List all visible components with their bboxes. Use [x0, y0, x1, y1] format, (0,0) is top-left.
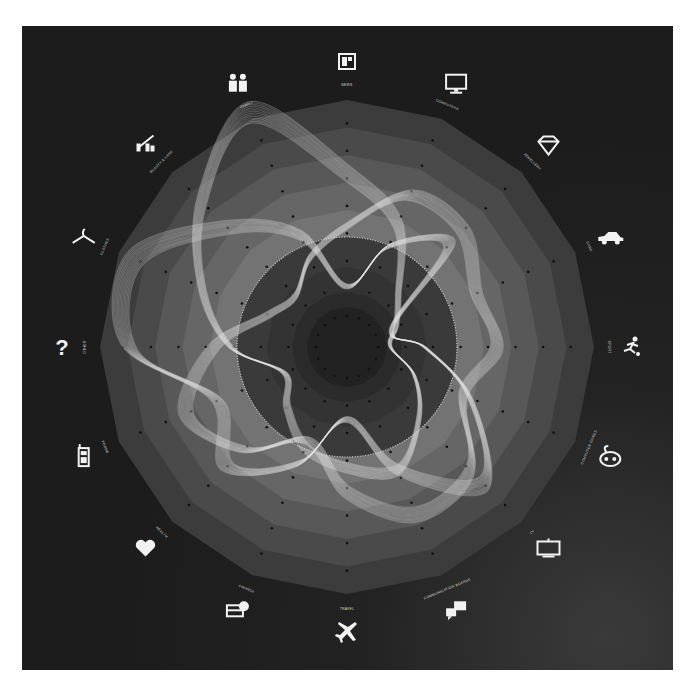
- grid-dot: [190, 281, 193, 284]
- grid-dot: [426, 426, 429, 429]
- grid-dot: [446, 446, 449, 449]
- grid-dot: [407, 407, 410, 410]
- inner-ring: [307, 307, 387, 387]
- category-label: OTHER: [83, 340, 87, 354]
- grid-dot: [527, 271, 530, 274]
- grid-dot: [346, 514, 349, 517]
- grid-dot: [389, 451, 392, 454]
- grid-dot: [150, 346, 153, 349]
- grid-dot: [292, 215, 295, 218]
- grid-dot: [324, 368, 327, 371]
- grid-dot: [379, 266, 382, 269]
- grid-dot: [404, 346, 407, 349]
- grid-dot: [323, 292, 326, 295]
- category-label: PHONE: [101, 440, 110, 454]
- radial-chart: NEWSCOMPUTERSJEWELLERYCARSSPORTCOMPUTER …: [0, 0, 690, 694]
- newspaper-icon: [339, 54, 355, 69]
- grid-dot: [425, 313, 428, 316]
- grid-dot: [246, 246, 249, 249]
- category-label: HEALTH: [155, 526, 169, 540]
- grid-dot: [552, 431, 555, 434]
- grid-dot: [313, 266, 316, 269]
- grid-dot: [346, 432, 349, 435]
- grid-dot: [400, 323, 403, 326]
- grid-dot: [358, 375, 361, 378]
- grid-dot: [188, 504, 191, 507]
- beauty-care-icon: [137, 136, 155, 152]
- category-label: COMPUTERS: [435, 98, 459, 111]
- hanger-icon: [73, 229, 95, 243]
- grid-dot: [368, 368, 371, 371]
- grid-dot: [451, 302, 454, 305]
- grid-dot: [476, 400, 479, 403]
- grid-dot: [260, 139, 263, 142]
- category-label: SPORT: [607, 340, 611, 353]
- grid-dot: [346, 404, 349, 407]
- grid-dot: [407, 285, 410, 288]
- grid-dot: [421, 527, 424, 530]
- grid-dot: [207, 207, 210, 210]
- grid-dot: [281, 502, 284, 505]
- grid-dot: [504, 188, 507, 191]
- grid-dot: [431, 552, 434, 555]
- grid-dot: [387, 387, 390, 390]
- grid-dot: [215, 292, 218, 295]
- grid-dot: [317, 358, 320, 361]
- grid-dot: [410, 502, 413, 505]
- grid-dot: [451, 389, 454, 392]
- grid-dot: [346, 122, 349, 125]
- category-label: COMPUTER GAMES: [580, 429, 598, 465]
- grid-dot: [502, 281, 505, 284]
- grid-dot: [313, 425, 316, 428]
- grid-dot: [431, 139, 434, 142]
- grid-dot: [241, 389, 244, 392]
- car-icon: [598, 232, 623, 245]
- grid-dot: [271, 527, 274, 530]
- grid-dot: [346, 205, 349, 208]
- category-label: CARS: [585, 241, 593, 253]
- grid-dot: [265, 265, 268, 268]
- tv-icon: [538, 539, 560, 558]
- mobile-phone-icon: [79, 444, 89, 466]
- grid-dot: [287, 346, 290, 349]
- grid-dot: [165, 421, 168, 424]
- grid-dot: [459, 346, 462, 349]
- grid-dot: [315, 346, 318, 349]
- grid-dot: [368, 324, 371, 327]
- grid-dot: [346, 232, 349, 235]
- grid-dot: [323, 400, 326, 403]
- grid-dot: [346, 315, 349, 318]
- grid-dot: [177, 346, 180, 349]
- grid-dot: [504, 504, 507, 507]
- grid-dot: [346, 260, 349, 263]
- grid-dot: [188, 188, 191, 191]
- grid-dot: [317, 334, 320, 337]
- grid-dot: [425, 379, 428, 382]
- grid-dot: [569, 346, 572, 349]
- grid-dot: [304, 387, 307, 390]
- family-icon: [229, 74, 247, 92]
- grid-dot: [266, 379, 269, 382]
- category-label: BEAUTY & CARE: [149, 149, 174, 174]
- grid-dot: [346, 377, 349, 380]
- grid-dot: [334, 317, 337, 320]
- category-label: TV: [529, 529, 536, 536]
- diamond-icon: [539, 137, 559, 155]
- grid-dot: [265, 426, 268, 429]
- grid-dot: [346, 569, 349, 572]
- grid-dot: [542, 346, 545, 349]
- grid-dot: [502, 410, 505, 413]
- monitor-icon: [446, 75, 466, 94]
- grid-dot: [514, 346, 517, 349]
- grid-dot: [260, 346, 263, 349]
- grid-dot: [377, 346, 380, 349]
- category-label: NEWS: [341, 83, 353, 87]
- grid-dot: [346, 542, 349, 545]
- grid-dot: [379, 425, 382, 428]
- grid-dot: [139, 431, 142, 434]
- grid-dot: [387, 304, 390, 307]
- grid-dot: [165, 271, 168, 274]
- category-label: COMMUNICATION BOARDS: [423, 577, 471, 600]
- credit-card-icon: [227, 601, 249, 616]
- airplane-icon: [335, 622, 357, 643]
